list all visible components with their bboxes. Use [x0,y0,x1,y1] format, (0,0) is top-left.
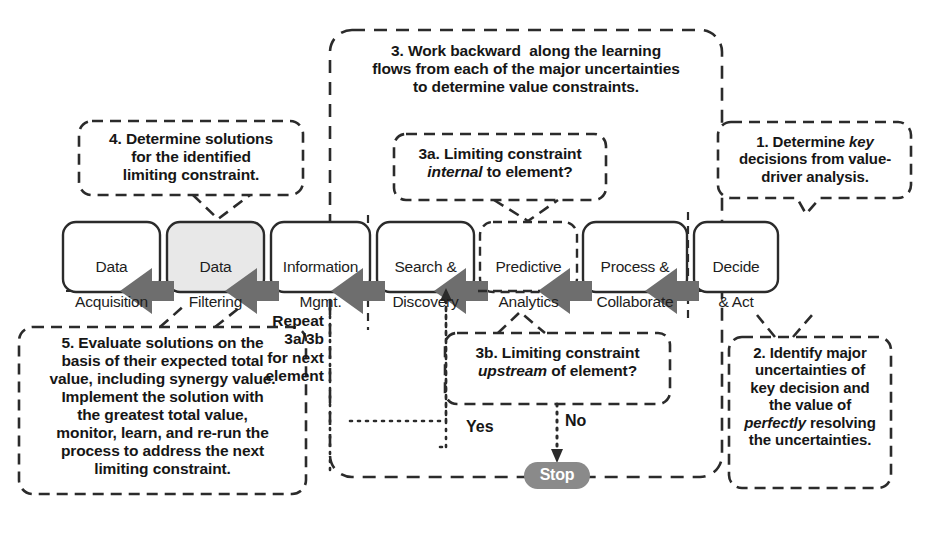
callout-step-2-tail [757,315,812,337]
repeat-note-text: Repeat 3a/3b for next element [238,312,324,385]
stop-label: Stop [524,466,590,484]
process-label-decide-act: Decide & Act [694,240,778,310]
no-label: No [565,412,586,431]
process-label-data-filtering: Data Filtering [167,240,264,310]
process-label-process-collaborate: Process & Collaborate [581,240,689,310]
callout-step-4-tail [193,195,250,219]
process-label-predictive-analytics: Predictive Analytics [480,240,577,310]
process-label-information-mgmt: Information Mgmt. [269,240,372,310]
callout-step-3b-text: 3b. Limiting constraintupstream of eleme… [445,344,670,380]
callout-step-4-text: 4. Determine solutionsfor the identified… [79,130,303,184]
diagram-canvas: Data Acquisition Data Filtering Informat… [0,0,928,537]
yes-label: Yes [466,418,494,437]
callout-step-2-text: 2. Identify majoruncertainties ofkey dec… [729,344,891,448]
no-path-arrowhead-icon [551,449,563,463]
process-label-data-acquisition: Data Acquisition [63,240,160,310]
callout-step-3-text: 3. Work backward along the learningflows… [334,42,718,96]
process-label-search-discovery: Search & Discovery [377,240,474,310]
callout-step-3b-tail [498,312,545,333]
callout-step-3a-tail [494,200,558,221]
callout-step-3a-text: 3a. Limiting constraintinternal to eleme… [394,145,606,181]
callout-step-1-text: 1. Determine keydecisions from value-dri… [719,133,911,185]
